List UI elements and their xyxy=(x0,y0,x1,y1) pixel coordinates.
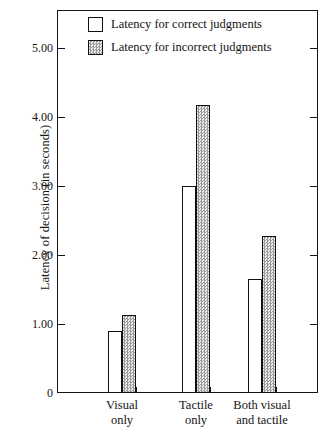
y-tick-label-1-00: 1.00 xyxy=(17,318,53,330)
y-axis-tick-5-00 xyxy=(57,48,65,49)
stippled-square-icon xyxy=(88,40,103,55)
x-axis-category-labels: VisualonlyTactileonlyBoth visualand tact… xyxy=(57,396,318,427)
x-axis-tick xyxy=(136,387,137,393)
y-axis-tick-right-2-00 xyxy=(310,255,318,256)
bar-chart-figure: Latency of decision (in seconds) 01.002.… xyxy=(0,0,326,427)
x-category-label-line: and tactile xyxy=(214,413,310,427)
y-tick-label-0: 0 xyxy=(17,387,53,399)
y-axis-tick-right-3-00 xyxy=(310,186,318,187)
y-axis-tick-right-5-00 xyxy=(310,48,318,49)
white-square-icon xyxy=(88,17,103,32)
x-category-label-3: Both visualand tactile xyxy=(214,398,310,427)
y-tick-label-2-00: 2.00 xyxy=(17,249,53,261)
y-tick-label-5-00: 5.00 xyxy=(17,42,53,54)
y-axis-tick-right-1-00 xyxy=(310,324,318,325)
y-axis-tick-2-00 xyxy=(57,255,65,256)
bar-incorrect-group-3 xyxy=(262,236,276,393)
y-axis-tick-1-00 xyxy=(57,324,65,325)
chart-legend: Latency for correct judgmentsLatency for… xyxy=(88,14,303,60)
legend-label-correct: Latency for correct judgments xyxy=(111,17,262,32)
bar-incorrect-group-1 xyxy=(122,315,136,393)
bar-incorrect-group-2 xyxy=(196,105,210,393)
y-axis-tick-3-00 xyxy=(57,186,65,187)
legend-item-correct: Latency for correct judgments xyxy=(88,14,303,35)
x-axis-tick xyxy=(210,387,211,393)
plot-area xyxy=(57,10,318,393)
bar-correct-group-3 xyxy=(248,279,262,393)
legend-item-incorrect: Latency for incorrect judgments xyxy=(88,37,303,58)
y-axis-tick-labels: 01.002.003.004.005.00 xyxy=(12,0,53,427)
x-axis-tick xyxy=(108,387,109,393)
bar-correct-group-1 xyxy=(108,331,122,393)
legend-label-incorrect: Latency for incorrect judgments xyxy=(111,40,272,55)
y-axis-tick-4-00 xyxy=(57,117,65,118)
x-category-label-line: Both visual xyxy=(214,398,310,413)
x-axis-tick xyxy=(276,387,277,393)
y-tick-label-4-00: 4.00 xyxy=(17,111,53,123)
y-tick-label-3-00: 3.00 xyxy=(17,180,53,192)
x-axis-tick xyxy=(248,387,249,393)
y-axis-tick-right-4-00 xyxy=(310,117,318,118)
x-axis-tick xyxy=(182,387,183,393)
bar-correct-group-2 xyxy=(182,186,196,393)
